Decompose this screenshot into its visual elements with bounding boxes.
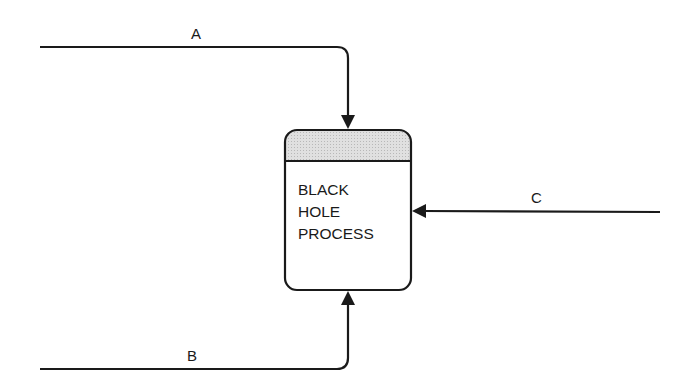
process-label-line: PROCESS [298, 223, 374, 245]
arrowhead-b [341, 291, 355, 305]
flow-label-c: C [531, 189, 542, 206]
process-label-line: HOLE [298, 201, 374, 223]
process-label-line: BLACK [298, 179, 374, 201]
dfd-canvas: A B C BLACK HOLE PROCESS [0, 0, 694, 392]
flow-label-b: B [187, 347, 197, 364]
flow-c [422, 211, 660, 212]
arrowhead-a [341, 115, 355, 129]
process-label: BLACK HOLE PROCESS [298, 179, 374, 245]
flow-a [40, 47, 348, 118]
arrowhead-c [412, 204, 426, 218]
flow-label-a: A [191, 25, 201, 42]
